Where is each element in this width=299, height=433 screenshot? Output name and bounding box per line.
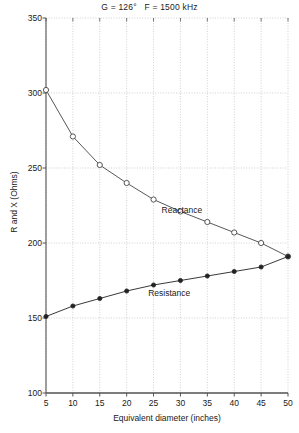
data-point-resistance-25: [151, 283, 155, 287]
data-point-reactance-20: [124, 180, 129, 185]
data-point-reactance-10: [70, 134, 75, 139]
data-point-resistance-10: [71, 304, 75, 308]
data-point-reactance-15: [97, 162, 102, 167]
data-point-resistance-5: [44, 314, 48, 318]
data-point-reactance-45: [259, 240, 264, 245]
chart-figure: G = 126° F = 1500 kHz R and X (Ohms) Equ…: [0, 0, 299, 433]
annotation-reactance: Reactance: [162, 205, 203, 215]
data-point-resistance-45: [259, 265, 263, 269]
data-point-reactance-5: [43, 87, 48, 92]
data-point-resistance-15: [98, 296, 102, 300]
data-point-reactance-40: [232, 230, 237, 235]
plot-area: [0, 0, 299, 433]
data-point-resistance-50: [286, 254, 290, 258]
data-point-resistance-20: [125, 289, 129, 293]
data-point-reactance-25: [151, 197, 156, 202]
data-point-reactance-35: [205, 219, 210, 224]
data-point-resistance-40: [232, 269, 236, 273]
annotation-resistance: Resistance: [148, 288, 190, 298]
data-point-resistance-30: [178, 278, 182, 282]
data-point-resistance-35: [205, 274, 209, 278]
